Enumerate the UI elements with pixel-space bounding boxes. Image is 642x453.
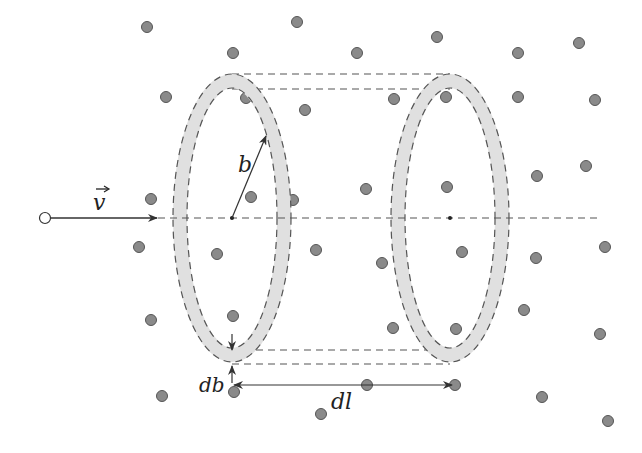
scattering-center-dot	[146, 315, 157, 326]
scattering-center-dot	[451, 324, 462, 335]
scattering-center-dot	[146, 194, 157, 205]
radius-arrow	[232, 136, 266, 218]
scattering-center-dot	[229, 387, 240, 398]
scattering-center-dot	[595, 329, 606, 340]
scattering-center-dot	[442, 182, 453, 193]
scattering-center-dot	[532, 171, 543, 182]
scattering-center-dot	[142, 22, 153, 33]
scattering-center-dot	[377, 258, 388, 269]
scattering-center-dot	[457, 247, 468, 258]
scattering-center-dot	[228, 311, 239, 322]
scattering-center-dot	[531, 253, 542, 264]
scattering-center-dot	[228, 48, 239, 59]
scattering-center-dot	[212, 249, 223, 260]
scattering-center-dot	[603, 416, 614, 427]
scattering-center-dot	[537, 392, 548, 403]
radius-label: b	[238, 152, 252, 177]
right-ring-center	[448, 216, 452, 220]
scattering-center-dot	[388, 323, 399, 334]
scattering-center-dot	[361, 184, 372, 195]
length-label: dl	[331, 389, 352, 414]
scattering-centers	[134, 17, 614, 427]
scattering-center-dot	[600, 242, 611, 253]
scattering-center-dot	[157, 391, 168, 402]
cylinder-shell-diagram: v b db dl	[0, 0, 642, 453]
scattering-center-dot	[519, 305, 530, 316]
scattering-center-dot	[161, 92, 172, 103]
scattering-center-dot	[352, 48, 363, 59]
scattering-center-dot	[316, 409, 327, 420]
scattering-center-dot	[513, 48, 524, 59]
scattering-center-dot	[574, 38, 585, 49]
scattering-center-dot	[513, 92, 524, 103]
scattering-center-dot	[590, 95, 601, 106]
scattering-center-dot	[432, 32, 443, 43]
scattering-center-dot	[311, 245, 322, 256]
scattering-center-dot	[300, 105, 311, 116]
thickness-label: db	[199, 373, 225, 397]
scattering-center-dot	[441, 92, 452, 103]
velocity-label: v	[93, 190, 106, 215]
scattering-center-dot	[246, 192, 257, 203]
scattering-center-dot	[581, 161, 592, 172]
scattering-center-dot	[389, 94, 400, 105]
particle	[40, 213, 51, 224]
scattering-center-dot	[134, 242, 145, 253]
scattering-center-dot	[292, 17, 303, 28]
